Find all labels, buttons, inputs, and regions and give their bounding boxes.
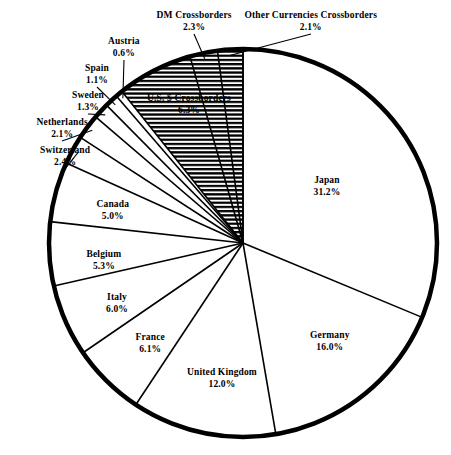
slice-label: Netherlands2.1%: [37, 117, 88, 140]
slice-label: United Kingdom12.0%: [187, 367, 257, 390]
slice-label-name: DM Crossborders: [157, 10, 232, 22]
slice-label-value: 6.3%: [147, 105, 231, 117]
slice-label-value: 31.2%: [314, 187, 341, 199]
slice-label: Italy6.0%: [106, 292, 128, 315]
slice-label-value: 2.1%: [37, 129, 88, 141]
slice-label-name: United Kingdom: [187, 367, 257, 379]
slice-label-value: 1.1%: [85, 75, 109, 87]
slice-label: Spain1.1%: [85, 63, 109, 86]
slice-label-name: Switzerland: [40, 145, 90, 157]
slice-label-name: Japan: [314, 175, 341, 187]
slice-label: Canada5.0%: [97, 199, 130, 222]
slice-label-value: 2.4%: [40, 157, 90, 169]
slice-label-name: U.S. $ Crossborders: [147, 93, 231, 105]
slice-label: France6.1%: [136, 332, 165, 355]
slice-label-value: 5.0%: [97, 211, 130, 223]
slice-label-value: 6.0%: [106, 304, 128, 316]
slice-label: Belgium5.3%: [87, 249, 122, 272]
slice-label: Other Currencies Crossborders2.1%: [245, 10, 378, 33]
slice-label: Germany16.0%: [310, 330, 350, 353]
slice-label-name: Germany: [310, 330, 350, 342]
slice-label-value: 12.0%: [187, 379, 257, 391]
slice-label-value: 16.0%: [310, 342, 350, 354]
slice-label-name: Sweden: [72, 90, 104, 102]
slice-label-value: 1.3%: [72, 102, 104, 114]
slice-label: U.S. $ Crossborders6.3%: [147, 93, 231, 116]
slice-label-name: Belgium: [87, 249, 122, 261]
slice-label-value: 6.1%: [136, 344, 165, 356]
slice-label: Japan31.2%: [314, 175, 341, 198]
slice-label-name: Italy: [106, 292, 128, 304]
pie-chart-figure: Japan31.2%Germany16.0%United Kingdom12.0…: [0, 0, 451, 455]
slice-label-value: 2.3%: [157, 22, 232, 34]
slice-label-name: Austria: [108, 36, 140, 48]
slice-label-name: Netherlands: [37, 117, 88, 129]
slice-label-value: 2.1%: [245, 22, 378, 34]
slice-label-value: 0.6%: [108, 48, 140, 60]
slice-label: Sweden1.3%: [72, 90, 104, 113]
slice-label-name: Other Currencies Crossborders: [245, 10, 378, 22]
slice-label-value: 5.3%: [87, 261, 122, 273]
slice-label: Austria0.6%: [108, 36, 140, 59]
slice-label-name: France: [136, 332, 165, 344]
slice-label: Switzerland2.4%: [40, 145, 90, 168]
slice-label-name: Canada: [97, 199, 130, 211]
slice-label-name: Spain: [85, 63, 109, 75]
slice-label: DM Crossborders2.3%: [157, 10, 232, 33]
